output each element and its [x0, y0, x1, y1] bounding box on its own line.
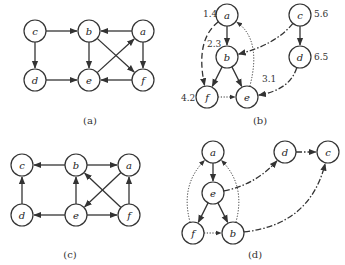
- node-d-f: f: [182, 222, 204, 244]
- node-timestamp-label: 3.1: [262, 74, 276, 84]
- node-a-b: b: [78, 20, 100, 42]
- node-d-e: e: [202, 182, 224, 204]
- node-c-b: b: [65, 154, 87, 176]
- node-b-a: a: [216, 4, 238, 26]
- node-label: d: [19, 210, 25, 221]
- node-label: e: [86, 75, 92, 86]
- node-b-f: f: [196, 86, 218, 108]
- node-label: c: [32, 26, 38, 37]
- node-label: e: [210, 188, 216, 199]
- node-label: c: [19, 160, 25, 171]
- node-a-a: a: [132, 20, 154, 42]
- node-b-d: d: [289, 46, 311, 68]
- node-label: b: [73, 160, 79, 171]
- node-label: e: [244, 92, 250, 103]
- node-label: e: [73, 210, 79, 221]
- node-a-d: d: [24, 69, 46, 91]
- node-label: d: [32, 75, 38, 86]
- node-a-f: f: [132, 69, 154, 91]
- node-timestamp-label: 4.2: [181, 93, 195, 103]
- edge-d-e-to-d: [224, 161, 277, 191]
- caption-a: (a): [83, 115, 97, 126]
- node-b-b: b: [216, 46, 238, 68]
- node-d-d: d: [274, 141, 296, 163]
- node-c-e: e: [65, 204, 87, 226]
- node-c-c: c: [11, 154, 33, 176]
- nodes-layer: cbadefacbdfecbadefadcefb: [11, 4, 339, 244]
- graph-diagram: cbadefacbdfecbadefadcefb (a)1.42.33.14.2…: [0, 0, 345, 265]
- caption-d: (d): [248, 249, 262, 260]
- node-timestamp-label: 2.3: [207, 39, 222, 49]
- caption-b: (b): [253, 115, 267, 126]
- node-label: c: [325, 147, 331, 158]
- node-d-b: b: [222, 222, 244, 244]
- node-label: b: [86, 26, 92, 37]
- node-label: a: [126, 160, 132, 171]
- node-label: d: [297, 52, 303, 63]
- node-timestamp-label: 6.5: [314, 52, 329, 62]
- node-label: a: [224, 10, 230, 21]
- edge-b-b-to-e: [232, 67, 242, 86]
- node-c-d: d: [11, 204, 33, 226]
- node-d-c: c: [317, 141, 339, 163]
- edge-b-a-to-f: [202, 22, 219, 85]
- node-c-f: f: [118, 204, 140, 226]
- edge-b-b-to-f: [212, 67, 222, 86]
- node-c-a: a: [118, 154, 140, 176]
- node-b-e: e: [236, 86, 258, 108]
- node-d-a: a: [202, 141, 224, 163]
- caption-c: (c): [63, 249, 77, 260]
- edges-layer: [22, 22, 325, 233]
- edge-d-b-to-c: [244, 164, 325, 232]
- edge-b-c-to-b: [239, 23, 293, 54]
- node-timestamp-label: 1.4: [203, 9, 218, 19]
- edge-d-e-to-f: [198, 203, 208, 222]
- node-label: a: [140, 26, 146, 37]
- node-a-c: c: [24, 20, 46, 42]
- node-label: b: [230, 228, 236, 239]
- node-timestamp-label: 5.6: [314, 9, 329, 19]
- node-label: b: [224, 52, 230, 63]
- node-label: a: [210, 147, 216, 158]
- node-label: d: [282, 147, 288, 158]
- node-label: c: [297, 10, 303, 21]
- edge-d-e-to-b: [218, 203, 228, 222]
- node-b-c: c: [289, 4, 311, 26]
- node-a-e: e: [78, 69, 100, 91]
